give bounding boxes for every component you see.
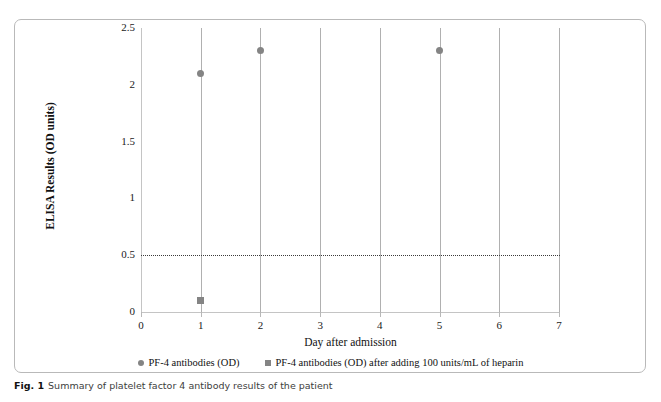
x-tick-label-4: 4 [367, 319, 393, 331]
positive-cutoff-threshold [141, 255, 560, 256]
gridline-day-6 [499, 28, 500, 313]
y-tick-label-0.5: 0.5 [107, 249, 135, 260]
legend-label-2: PF-4 antibodies (OD) after adding 100 un… [275, 357, 523, 368]
legend-label-1: PF-4 antibodies (OD) [148, 357, 239, 368]
x-tick-1 [201, 312, 202, 317]
figure-caption: Fig. 1 Summary of platelet factor 4 anti… [14, 375, 646, 395]
legend-square-marker-icon [265, 360, 271, 366]
x-tick-3 [320, 312, 321, 317]
data-point-series1-day2 [257, 47, 264, 54]
gridline-day-7 [559, 28, 560, 313]
y-tick-label-2.5: 2.5 [107, 22, 135, 33]
x-tick-4 [380, 312, 381, 317]
gridline-day-3 [320, 28, 321, 313]
x-tick-label-1: 1 [188, 319, 214, 331]
data-point-series2-day1 [197, 297, 204, 304]
gridline-day-2 [260, 28, 261, 313]
chart-area: 00.511.522.5 01234567 ELISA Results (OD … [15, 20, 647, 374]
x-axis-line [141, 312, 560, 313]
gridline-day-5 [440, 28, 441, 313]
x-tick-6 [499, 312, 500, 317]
x-tick-0 [141, 312, 142, 317]
x-tick-label-2: 2 [247, 319, 273, 331]
gridline-day-4 [380, 28, 381, 313]
figure-caption-text: Summary of platelet factor 4 antibody re… [48, 380, 332, 391]
legend-item-2: PF-4 antibodies (OD) after adding 100 un… [265, 357, 523, 368]
y-tick-label-2: 2 [107, 79, 135, 90]
x-tick-label-3: 3 [307, 319, 333, 331]
data-point-series1-day5 [436, 47, 443, 54]
legend-circle-marker-icon [138, 360, 144, 366]
data-point-series1-day1 [197, 70, 204, 77]
x-tick-7 [559, 312, 560, 317]
y-tick-label-0: 0 [107, 306, 135, 317]
x-tick-label-6: 6 [486, 319, 512, 331]
y-tick-label-1: 1 [107, 192, 135, 203]
legend-item-1: PF-4 antibodies (OD) [138, 357, 239, 368]
y-tick-label-1.5: 1.5 [107, 136, 135, 147]
chart-legend: PF-4 antibodies (OD)PF-4 antibodies (OD)… [15, 357, 647, 368]
figure-frame: 00.511.522.5 01234567 ELISA Results (OD … [14, 19, 646, 373]
y-axis-title: ELISA Results (OD units) [44, 76, 56, 256]
x-tick-2 [260, 312, 261, 317]
figure-caption-label: Fig. 1 [14, 380, 44, 391]
x-tick-label-5: 5 [427, 319, 453, 331]
y-axis-line [141, 28, 142, 313]
x-axis-title: Day after admission [141, 336, 560, 348]
x-tick-label-0: 0 [128, 319, 154, 331]
x-tick-5 [440, 312, 441, 317]
x-tick-label-7: 7 [546, 319, 572, 331]
